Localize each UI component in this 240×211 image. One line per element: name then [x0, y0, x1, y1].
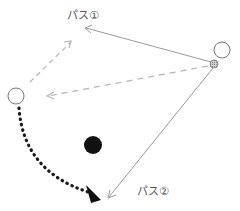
arrowhead-icon — [64, 41, 71, 48]
pass1-label: パス① — [67, 6, 99, 22]
dotted-run-arrow — [19, 108, 101, 203]
triangle-arrowhead-icon — [86, 185, 101, 203]
pass2-label: パス② — [137, 182, 169, 198]
pass1-arrow — [85, 25, 211, 62]
player-left — [8, 88, 24, 104]
defender — [84, 136, 102, 154]
pass-diagram — [0, 0, 240, 211]
pass2-arrow — [108, 68, 213, 198]
dashed-run-arrow — [30, 41, 71, 82]
player-right — [214, 42, 230, 58]
dashed-pass-arrow — [47, 66, 208, 99]
ball — [210, 60, 218, 68]
